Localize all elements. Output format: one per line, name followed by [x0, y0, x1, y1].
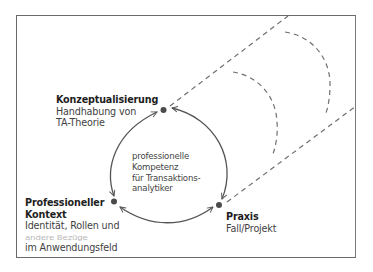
center-label: professionelle Kompetenz für Transaktion… — [132, 151, 200, 194]
node-description: Handhabung von — [56, 106, 158, 118]
node-title: Konzeptualisierung — [56, 94, 158, 106]
node-label-konzeptualisierung: Konzeptualisierung Handhabung von TA-The… — [56, 94, 158, 129]
node-dot-konzeptualisierung — [161, 107, 167, 113]
dashed-arc-inner — [233, 72, 277, 154]
dashed-arc-outer — [285, 32, 330, 113]
node-dot-praxis — [216, 202, 222, 208]
node-description: Identität, Rollen und — [25, 220, 119, 232]
node-description: im Anwendungsfeld — [25, 242, 119, 254]
center-line: für Transaktions- — [132, 173, 200, 184]
node-description: TA-Theorie — [56, 117, 158, 129]
center-line: professionelle — [132, 151, 200, 162]
node-description-faded: andere Bezüge — [25, 233, 119, 242]
center-line: Kompetenz — [132, 162, 200, 173]
node-title: Professioneller — [25, 197, 119, 209]
center-line: analytiker — [132, 183, 200, 194]
node-label-kontext: Professioneller Kontext Identität, Rolle… — [25, 197, 119, 253]
dashed-line-bottom — [227, 106, 356, 202]
node-description: Fall/Projekt — [226, 223, 276, 235]
arrow-kontext-praxis — [120, 207, 213, 223]
node-title: Kontext — [25, 209, 119, 221]
node-label-praxis: Praxis Fall/Projekt — [226, 211, 276, 234]
node-title: Praxis — [226, 211, 276, 223]
dashed-line-top — [170, 16, 288, 106]
